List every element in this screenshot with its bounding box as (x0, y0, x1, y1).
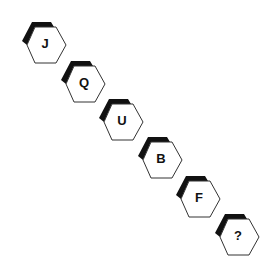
question-mark: ? (211, 211, 261, 257)
hexagon-question: ? (211, 211, 261, 257)
